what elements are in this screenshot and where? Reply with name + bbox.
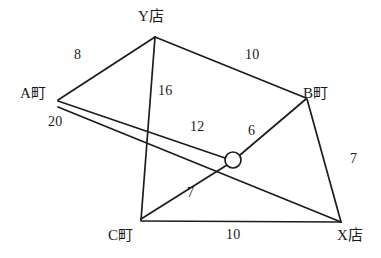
node-label-x: X店 [337, 228, 363, 243]
edge-weight-b-j: 6 [248, 124, 255, 138]
node-label-b: B町 [303, 86, 328, 101]
edge-weight-y-c: 16 [158, 84, 172, 98]
junction-node-circle [225, 152, 241, 168]
edge-c-j-line [141, 165, 227, 219]
edge-b-x-line [307, 99, 341, 222]
edge-c-x-line [141, 221, 341, 222]
node-label-c: C町 [108, 228, 133, 243]
edge-weight-a-y: 8 [74, 48, 81, 62]
edge-weight-b-x: 7 [350, 152, 357, 166]
edge-weight-a-j: 12 [190, 120, 204, 134]
edge-a-y-line [58, 37, 155, 100]
edge-weight-a-x: 20 [48, 115, 62, 129]
edge-weight-y-b: 10 [245, 48, 259, 62]
node-label-a: A町 [20, 86, 46, 101]
edge-y-b-line [155, 37, 306, 98]
edge-weight-c-j: 7 [187, 186, 194, 200]
edge-weight-c-x: 10 [226, 228, 240, 242]
node-label-y: Y店 [138, 9, 164, 24]
graph-diagram: Y店 A町 B町 C町 X店 8 10 16 12 6 7 20 7 10 [0, 0, 381, 258]
edge-y-c-line [141, 37, 155, 220]
